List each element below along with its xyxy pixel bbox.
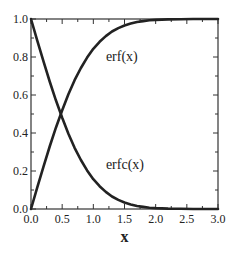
curve-erfx xyxy=(31,19,218,209)
label-erfx: erf(x) xyxy=(106,49,138,65)
x-tick-label: 2.0 xyxy=(148,212,163,226)
y-tick-label: 0.8 xyxy=(13,50,28,64)
x-tick-label: 3.0 xyxy=(211,212,226,226)
y-tick-label: 0.6 xyxy=(13,88,28,102)
data-series xyxy=(31,19,218,209)
y-tick-label: 1.0 xyxy=(13,12,28,26)
x-tick-label: 0.5 xyxy=(55,212,70,226)
plot-border xyxy=(31,19,218,209)
y-tick-label: 0.4 xyxy=(13,126,28,140)
chart-svg: 0.00.51.01.52.02.53.00.00.20.40.60.81.0 … xyxy=(0,0,236,254)
axis-tick-labels: 0.00.51.01.52.02.53.00.00.20.40.60.81.0 xyxy=(13,12,226,226)
curve-labels: erf(x)erfc(x) xyxy=(106,49,144,173)
y-tick-label: 0.0 xyxy=(13,202,28,216)
label-erfcx: erfc(x) xyxy=(106,157,144,173)
x-tick-label: 1.5 xyxy=(117,212,132,226)
axis-ticks xyxy=(31,19,218,209)
x-tick-label: 1.0 xyxy=(86,212,101,226)
x-axis-label: x xyxy=(121,228,129,245)
erf-erfc-chart: 0.00.51.01.52.02.53.00.00.20.40.60.81.0 … xyxy=(0,0,236,254)
x-tick-label: 2.5 xyxy=(179,212,194,226)
plot-frame xyxy=(31,19,218,209)
curve-erfcx xyxy=(31,19,218,209)
y-tick-label: 0.2 xyxy=(13,164,28,178)
